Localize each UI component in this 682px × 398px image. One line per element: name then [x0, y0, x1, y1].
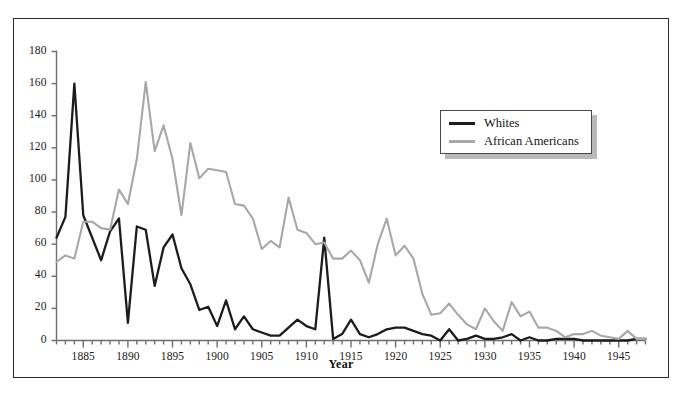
line-chart: 0204060801001201401601801885189018951900…	[0, 0, 682, 398]
figure-page: 0204060801001201401601801885189018951900…	[0, 0, 682, 398]
legend-label-african-americans: African Americans	[484, 135, 579, 148]
axis-layer	[52, 51, 646, 348]
y-axis-tick-label: 120	[5, 140, 47, 152]
legend-label-whites: Whites	[484, 117, 519, 130]
y-axis-tick-label: 140	[5, 108, 47, 120]
legend-item-whites: Whites	[449, 114, 519, 132]
y-axis-tick-label: 80	[5, 204, 47, 216]
y-axis-tick-label: 0	[5, 333, 47, 345]
y-axis-tick-label: 60	[5, 236, 47, 248]
legend-swatch-whites	[449, 122, 475, 125]
legend-item-african-americans: African Americans	[449, 132, 579, 150]
y-axis-tick-label: 100	[5, 172, 47, 184]
y-axis-tick-label: 180	[5, 44, 47, 56]
chart-legend: Whites African Americans	[440, 110, 592, 154]
y-axis-tick-label: 20	[5, 300, 47, 312]
x-axis-title: Year	[0, 357, 682, 372]
chart-canvas	[0, 0, 682, 398]
y-axis-tick-label: 160	[5, 76, 47, 88]
y-axis-tick-label: 40	[5, 268, 47, 280]
legend-swatch-african-americans	[449, 140, 475, 143]
